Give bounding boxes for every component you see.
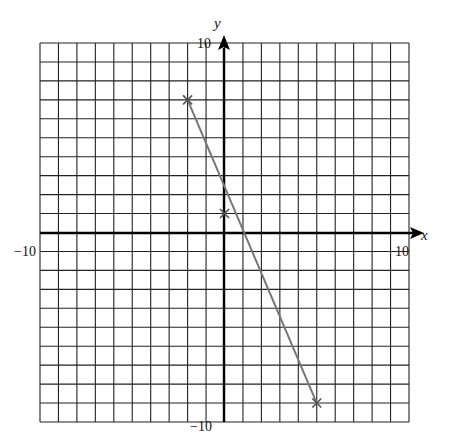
x-min-tick-label: −10 [14, 244, 36, 259]
y-min-tick-label: −10 [190, 419, 212, 434]
y-axis-label: y [212, 15, 221, 31]
y-max-tick-label: 10 [197, 36, 211, 51]
x-axis-label: x [420, 227, 428, 243]
axes [40, 35, 424, 422]
x-max-tick-label: 10 [395, 244, 409, 259]
coordinate-plane: x y 10 −10 −10 10 [0, 0, 450, 443]
